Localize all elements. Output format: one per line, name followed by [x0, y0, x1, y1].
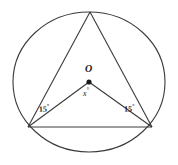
geometry-figure: O x° 15° 15°: [0, 0, 178, 165]
degree-symbol-icon: °: [87, 87, 89, 93]
degree-symbol-icon: °: [47, 103, 50, 109]
angle-label-left: 15°: [39, 103, 50, 114]
geometry-canvas: [0, 0, 178, 165]
radius-to-base-right: [89, 82, 152, 127]
degree-symbol-icon: °: [132, 103, 135, 109]
triangle-right-side: [90, 12, 152, 127]
angle-label-right: 15°: [124, 103, 135, 114]
center-point-label: O: [85, 64, 92, 74]
radius-to-base-left: [28, 82, 89, 127]
central-angle-label: x°: [83, 87, 89, 98]
angle-right-value: 15: [124, 104, 132, 113]
triangle-left-side: [28, 12, 90, 127]
center-point-dot: [86, 79, 91, 84]
